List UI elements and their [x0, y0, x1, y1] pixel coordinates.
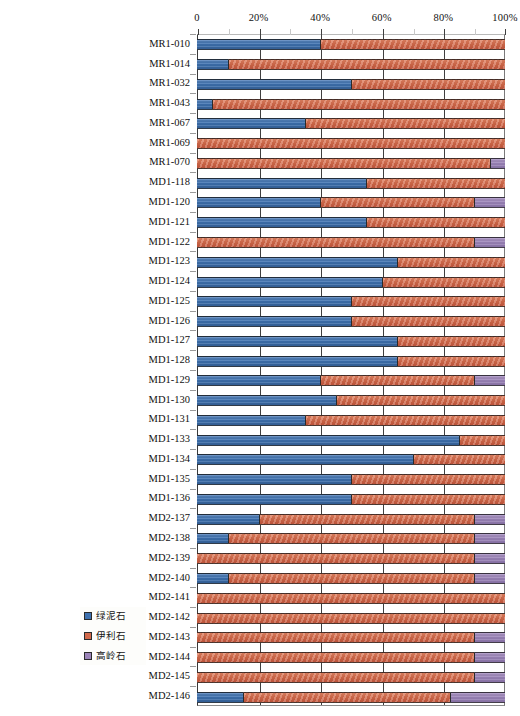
bar-segment-chlorite[interactable] [197, 474, 351, 485]
stacked-bar-md1-122[interactable] [197, 237, 505, 248]
stacked-bar-md1-128[interactable] [197, 356, 505, 367]
bar-segment-chlorite[interactable] [197, 316, 351, 327]
bar-segment-illite[interactable] [351, 79, 505, 90]
stacked-bar-md2-140[interactable] [197, 573, 505, 584]
bar-segment-illite[interactable] [459, 435, 505, 446]
bar-segment-illite[interactable] [197, 158, 490, 169]
bar-segment-illite[interactable] [336, 395, 505, 406]
bar-segment-illite[interactable] [320, 39, 505, 50]
stacked-bar-md1-120[interactable] [197, 197, 505, 208]
stacked-bar-md1-126[interactable] [197, 316, 505, 327]
bar-segment-illite[interactable] [197, 613, 505, 624]
bar-segment-illite[interactable] [305, 415, 505, 426]
bar-segment-chlorite[interactable] [197, 692, 243, 703]
bar-segment-kaolinite[interactable] [490, 158, 505, 169]
legend-item-kaolinite[interactable]: 高岭石 [84, 650, 142, 661]
bar-segment-chlorite[interactable] [197, 454, 413, 465]
bar-segment-illite[interactable] [351, 474, 505, 485]
bar-segment-illite[interactable] [366, 178, 505, 189]
bar-segment-illite[interactable] [351, 316, 505, 327]
bar-segment-kaolinite[interactable] [474, 237, 505, 248]
bar-segment-chlorite[interactable] [197, 277, 382, 288]
stacked-bar-md1-129[interactable] [197, 375, 505, 386]
bar-segment-chlorite[interactable] [197, 59, 228, 70]
bar-segment-illite[interactable] [228, 573, 474, 584]
stacked-bar-md1-125[interactable] [197, 296, 505, 307]
bar-segment-kaolinite[interactable] [474, 533, 505, 544]
bar-segment-chlorite[interactable] [197, 573, 228, 584]
stacked-bar-mr1-010[interactable] [197, 39, 505, 50]
bar-segment-kaolinite[interactable] [474, 514, 505, 525]
bar-segment-kaolinite[interactable] [474, 553, 505, 564]
stacked-bar-md2-137[interactable] [197, 514, 505, 525]
bar-segment-illite[interactable] [413, 454, 505, 465]
stacked-bar-md1-136[interactable] [197, 494, 505, 505]
stacked-bar-md1-134[interactable] [197, 454, 505, 465]
bar-segment-illite[interactable] [197, 652, 474, 663]
stacked-bar-md1-121[interactable] [197, 217, 505, 228]
bar-segment-kaolinite[interactable] [474, 573, 505, 584]
stacked-bar-md1-123[interactable] [197, 257, 505, 268]
stacked-bar-mr1-069[interactable] [197, 138, 505, 149]
bar-segment-kaolinite[interactable] [474, 652, 505, 663]
bar-segment-chlorite[interactable] [197, 336, 397, 347]
stacked-bar-md1-130[interactable] [197, 395, 505, 406]
bar-segment-chlorite[interactable] [197, 435, 459, 446]
stacked-bar-mr1-032[interactable] [197, 79, 505, 90]
bar-segment-illite[interactable] [243, 692, 449, 703]
bar-segment-kaolinite[interactable] [474, 672, 505, 683]
bar-segment-illite[interactable] [366, 217, 505, 228]
stacked-bar-md2-143[interactable] [197, 632, 505, 643]
stacked-bar-md1-133[interactable] [197, 435, 505, 446]
stacked-bar-md2-141[interactable] [197, 593, 505, 604]
bar-segment-kaolinite[interactable] [474, 197, 505, 208]
stacked-bar-md2-142[interactable] [197, 613, 505, 624]
bar-segment-illite[interactable] [197, 672, 474, 683]
stacked-bar-md2-144[interactable] [197, 652, 505, 663]
stacked-bar-md1-127[interactable] [197, 336, 505, 347]
bar-segment-chlorite[interactable] [197, 257, 397, 268]
bar-segment-chlorite[interactable] [197, 296, 351, 307]
bar-segment-kaolinite[interactable] [450, 692, 505, 703]
bar-segment-illite[interactable] [305, 118, 505, 129]
bar-segment-kaolinite[interactable] [474, 375, 505, 386]
stacked-bar-md2-139[interactable] [197, 553, 505, 564]
bar-segment-chlorite[interactable] [197, 533, 228, 544]
bar-segment-illite[interactable] [212, 99, 505, 110]
bar-segment-chlorite[interactable] [197, 79, 351, 90]
stacked-bar-md1-118[interactable] [197, 178, 505, 189]
bar-segment-illite[interactable] [228, 59, 505, 70]
stacked-bar-md2-138[interactable] [197, 533, 505, 544]
bar-segment-chlorite[interactable] [197, 39, 320, 50]
stacked-bar-mr1-043[interactable] [197, 99, 505, 110]
bar-segment-chlorite[interactable] [197, 375, 320, 386]
stacked-bar-md2-145[interactable] [197, 672, 505, 683]
bar-segment-chlorite[interactable] [197, 178, 366, 189]
bar-segment-illite[interactable] [397, 257, 505, 268]
bar-segment-illite[interactable] [197, 632, 474, 643]
bar-segment-chlorite[interactable] [197, 494, 351, 505]
bar-segment-chlorite[interactable] [197, 197, 320, 208]
bar-segment-illite[interactable] [197, 553, 474, 564]
legend-item-chlorite[interactable]: 绿泥石 [84, 610, 142, 621]
bar-segment-illite[interactable] [320, 375, 474, 386]
bar-segment-chlorite[interactable] [197, 395, 336, 406]
bar-segment-illite[interactable] [259, 514, 475, 525]
bar-segment-illite[interactable] [197, 237, 474, 248]
stacked-bar-md1-135[interactable] [197, 474, 505, 485]
bar-segment-illite[interactable] [351, 494, 505, 505]
stacked-bar-md2-146[interactable] [197, 692, 505, 703]
stacked-bar-mr1-070[interactable] [197, 158, 505, 169]
bar-segment-chlorite[interactable] [197, 356, 397, 367]
bar-segment-illite[interactable] [320, 197, 474, 208]
bar-segment-illite[interactable] [351, 296, 505, 307]
bar-segment-illite[interactable] [197, 138, 505, 149]
legend-item-illite[interactable]: 伊利石 [84, 630, 142, 641]
bar-segment-illite[interactable] [397, 336, 505, 347]
stacked-bar-mr1-067[interactable] [197, 118, 505, 129]
bar-segment-illite[interactable] [228, 533, 474, 544]
stacked-bar-md1-124[interactable] [197, 277, 505, 288]
bar-segment-kaolinite[interactable] [474, 632, 505, 643]
bar-segment-chlorite[interactable] [197, 118, 305, 129]
bar-segment-chlorite[interactable] [197, 217, 366, 228]
